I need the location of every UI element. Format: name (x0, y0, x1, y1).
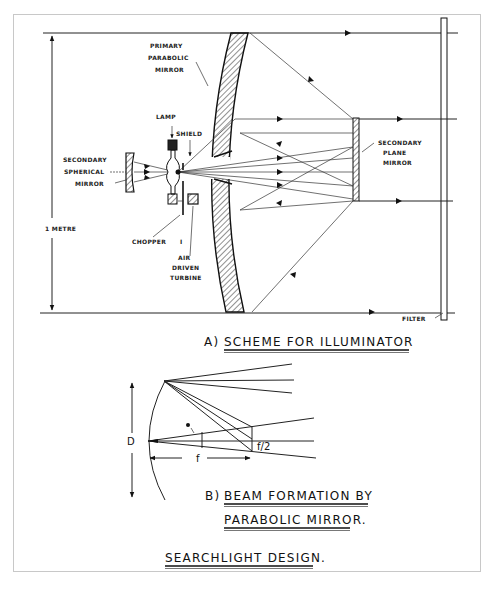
primary-mirror-label-3: MIRROR (155, 66, 184, 73)
part-a-illuminator-scheme: 1 METRE PRIMARY PARABOLIC MIRROR SECONDA… (40, 18, 458, 353)
primary-mirror-label-2: PARABOLIC (148, 54, 189, 61)
chopper-label: CHOPPER (132, 238, 166, 245)
secondary-plane-label-3: MIRROR (383, 159, 412, 166)
shield-label: SHIELD (176, 130, 202, 137)
figure-title: SEARCHLIGHT DESIGN. (165, 551, 326, 565)
diameter-label: D (127, 436, 135, 447)
chopper-number: I (180, 238, 183, 245)
air-driven-turbine: AIR DRIVEN TURBINE (170, 194, 202, 281)
secondary-plane-mirror (353, 118, 359, 201)
searchlight-diagram: 1 METRE PRIMARY PARABOLIC MIRROR SECONDA… (0, 0, 499, 595)
caption-a: SCHEME FOR ILLUMINATOR (224, 335, 414, 349)
turbine-label-1: AIR (178, 254, 190, 261)
part-b-beam-formation: D f f/2 B) BEAM FORMATION BY PARABOLIC M… (127, 364, 373, 531)
secondary-plane-label-2: PLANE (383, 149, 406, 156)
angle-ratio-label: f/2 (257, 441, 270, 452)
dimension-label: 1 METRE (45, 225, 76, 232)
caption-b-line1: BEAM FORMATION BY (224, 489, 373, 503)
turbine-label-3: TURBINE (170, 274, 202, 281)
spherical-mirror-label-3: MIRROR (75, 180, 104, 187)
turbine-label-2: DRIVEN (172, 264, 199, 271)
focal-length-label: f (196, 453, 200, 464)
shield: SHIELD (176, 130, 202, 170)
lamp: LAMP (156, 113, 181, 204)
filter-label: FILTER (402, 315, 426, 322)
spherical-mirror-label-2: SPHERICAL (64, 168, 104, 175)
caption-b-line2: PARABOLIC MIRROR. (224, 513, 367, 527)
lamp-label: LAMP (156, 113, 176, 120)
secondary-spherical-mirror (126, 153, 134, 192)
spherical-mirror-label-1: SECONDARY (63, 156, 107, 163)
caption-a-prefix: A) (204, 335, 219, 349)
filter (441, 18, 447, 320)
primary-mirror-label-1: PRIMARY (150, 42, 183, 49)
secondary-plane-label-1: SECONDARY (378, 139, 422, 146)
caption-b-prefix: B) (205, 489, 220, 503)
